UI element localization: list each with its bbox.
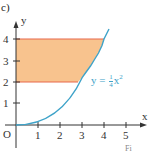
x-tick-label: 2 (57, 130, 63, 141)
curve-equation-label: y = 14x2 (91, 73, 123, 89)
x-tick-label: 5 (123, 130, 129, 141)
y-tick-label: 1 (3, 98, 9, 109)
equation-exponent: 2 (119, 73, 123, 81)
equation-fraction: 14 (109, 74, 113, 89)
x-tick-label: 4 (101, 130, 107, 141)
x-tick-label: 3 (79, 130, 85, 141)
y-tick-label: 3 (3, 56, 9, 67)
origin-label: O (3, 129, 11, 140)
x-axis-arrow-icon (140, 123, 147, 128)
y-axis-arrow-icon (14, 21, 19, 28)
x-tick-label: 1 (35, 130, 41, 141)
y-tick-label: 4 (3, 34, 9, 45)
x-axis-label: x (142, 111, 148, 122)
y-axis-label: y (21, 15, 27, 26)
equation-prefix: y = (91, 74, 108, 86)
figure-caption-fragment: Fi (125, 145, 132, 152)
y-tick-label: 2 (3, 77, 9, 88)
fraction-denominator: 4 (109, 82, 113, 89)
